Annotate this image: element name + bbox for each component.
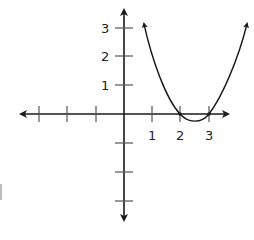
y-tick-label-2: 2	[101, 49, 109, 64]
x-tick-label-1: 1	[148, 128, 156, 143]
parabola-curve-left	[144, 24, 180, 114]
x-intercept-3-point	[207, 112, 211, 116]
y-tick-label-3: 3	[101, 21, 109, 36]
scan-artifact-mark	[0, 184, 2, 200]
x-tick-label-3: 3	[205, 128, 213, 143]
coordinate-plane: 1 2 3 1 2 3	[0, 0, 254, 240]
parabola-vertex-segment	[180, 114, 209, 121]
x-tick-label-2: 2	[176, 128, 184, 143]
parabola-curve-drawn	[209, 24, 247, 114]
y-axis	[115, 10, 133, 220]
y-tick-label-1: 1	[101, 78, 109, 93]
x-intercept-2-point	[178, 112, 182, 116]
